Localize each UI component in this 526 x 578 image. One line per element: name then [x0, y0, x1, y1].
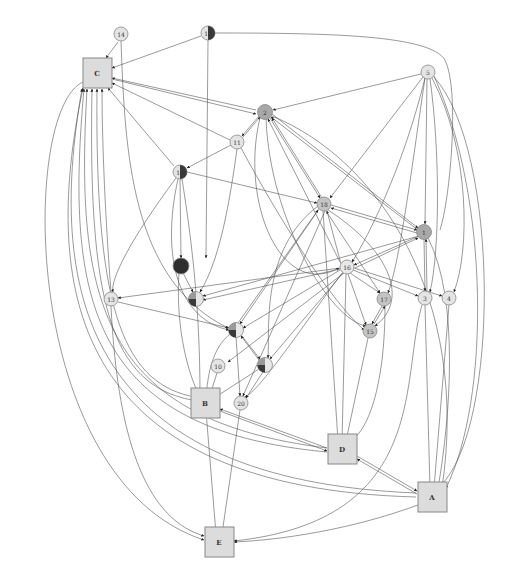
svg-text:E: E — [216, 538, 221, 547]
circle-node-12[interactable]: 12 — [201, 26, 215, 40]
svg-text:11: 11 — [233, 139, 241, 146]
box-node-C[interactable]: C — [83, 58, 112, 88]
svg-text:A: A — [428, 493, 435, 502]
svg-text:17: 17 — [380, 296, 388, 303]
circle-node-1[interactable]: 1 — [417, 225, 432, 240]
circle-node-14[interactable]: 14 — [114, 27, 128, 41]
circle-node-20[interactable]: 20 — [234, 396, 248, 410]
circle-node-5[interactable]: 5 — [421, 65, 435, 79]
nodes: C B D A E 14 12 5 — [83, 26, 456, 557]
graph-canvas: C B D A E 14 12 5 — [0, 0, 526, 578]
svg-text:20: 20 — [237, 400, 245, 407]
svg-text:12: 12 — [204, 30, 212, 37]
circle-node-18[interactable]: 18 — [317, 197, 331, 211]
circle-node-3[interactable]: 3 — [418, 291, 432, 305]
svg-text:19: 19 — [176, 169, 184, 176]
circle-node-10[interactable]: 10 — [211, 359, 225, 373]
svg-text:5: 5 — [426, 69, 430, 76]
svg-text:4: 4 — [447, 295, 451, 302]
svg-text:8: 8 — [194, 296, 198, 303]
circle-node-2[interactable]: 2 — [258, 105, 273, 120]
svg-text:13: 13 — [107, 296, 115, 303]
svg-text:6: 6 — [263, 362, 267, 369]
svg-text:3: 3 — [423, 295, 427, 302]
box-node-E[interactable]: E — [205, 527, 234, 557]
svg-text:D: D — [339, 445, 345, 454]
circle-node-7[interactable]: 7 — [173, 258, 189, 274]
circle-node-4[interactable]: 4 — [442, 291, 456, 305]
circle-node-15[interactable]: 15 — [363, 324, 377, 338]
circle-node-11[interactable]: 11 — [230, 135, 244, 149]
circle-node-6[interactable]: 6 — [258, 358, 273, 373]
svg-text:B: B — [202, 399, 208, 408]
svg-text:1: 1 — [422, 229, 426, 236]
svg-text:2: 2 — [263, 109, 267, 116]
circle-node-13[interactable]: 13 — [104, 292, 118, 306]
circle-node-17[interactable]: 17 — [377, 292, 391, 306]
box-node-D[interactable]: D — [328, 434, 357, 464]
circle-node-9[interactable]: 9 — [229, 323, 244, 338]
svg-text:9: 9 — [234, 327, 238, 334]
circle-node-19[interactable]: 19 — [173, 165, 187, 179]
svg-text:16: 16 — [343, 264, 351, 271]
svg-text:10: 10 — [214, 363, 222, 370]
box-node-B[interactable]: B — [191, 388, 220, 418]
svg-text:14: 14 — [117, 31, 125, 38]
svg-text:18: 18 — [320, 201, 328, 208]
svg-text:C: C — [94, 69, 100, 78]
svg-text:15: 15 — [366, 328, 374, 335]
circle-node-16[interactable]: 16 — [340, 260, 354, 274]
svg-text:7: 7 — [179, 263, 183, 270]
box-node-A[interactable]: A — [418, 482, 447, 512]
circle-node-8[interactable]: 8 — [189, 292, 204, 307]
